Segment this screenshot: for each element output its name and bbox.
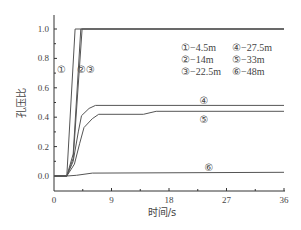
y-tick-label: 0.8 xyxy=(38,53,50,63)
legend-item-4: ④−27.5m xyxy=(232,42,272,53)
curve-label-1: ① xyxy=(57,64,66,75)
x-axis-title: 时间/s xyxy=(148,206,177,218)
legend-item-2: ②−14m xyxy=(181,54,214,65)
curve-6 xyxy=(54,172,284,176)
curve-label-5: ⑤ xyxy=(200,114,209,125)
curve-5 xyxy=(54,111,284,176)
x-tick-label: 18 xyxy=(165,195,175,205)
legend-item-6: ⑥−48m xyxy=(232,66,265,77)
y-tick-label: 0.2 xyxy=(38,142,49,152)
y-axis-title: 孔压比 xyxy=(16,88,27,118)
curve-label-6: ⑥ xyxy=(205,162,214,173)
legend-item-1: ①−4.5m xyxy=(181,42,216,53)
x-tick-label: 27 xyxy=(222,195,232,205)
legend: ①−4.5m ④−27.5m ②−14m ⑤−33m ③−22.5m ⑥−48m xyxy=(181,42,272,77)
legend-item-3: ③−22.5m xyxy=(181,66,221,77)
x-tick-label: 0 xyxy=(52,195,57,205)
legend-item-5: ⑤−33m xyxy=(232,54,265,65)
curve-label-2-3: ②③ xyxy=(77,64,95,75)
x-tick-label: 9 xyxy=(109,195,114,205)
x-tick-label: 36 xyxy=(280,195,290,205)
curve-4 xyxy=(54,105,284,176)
y-tick-label: 1.0 xyxy=(38,24,50,34)
y-tick-label: 0.6 xyxy=(38,83,50,93)
curve-label-4: ④ xyxy=(200,95,209,106)
chart: 1.0 0.8 0.6 0.4 0.2 0.0 0 9 18 27 36 时间/… xyxy=(0,0,301,230)
y-tick-label: 0.4 xyxy=(38,112,50,122)
y-tick-label: 0.0 xyxy=(38,171,50,181)
